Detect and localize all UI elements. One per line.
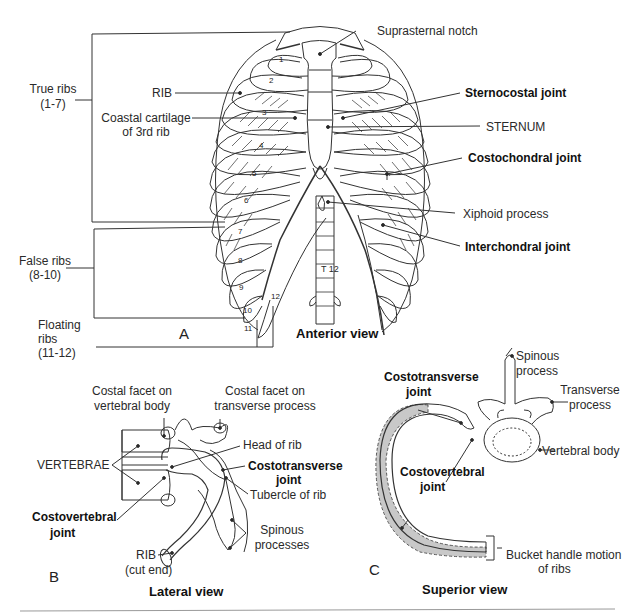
label-spinous-process-2: process [516, 364, 558, 378]
separator-line [20, 609, 615, 611]
label-false-ribs: False ribs [18, 254, 72, 268]
panel-letter-c: C [369, 561, 380, 578]
title-superior-view: Superior view [422, 582, 507, 597]
label-spinous-processes-2: processes [252, 538, 312, 552]
label-tubercle-of-rib: Tubercle of rib [250, 488, 326, 502]
label-costovertebral-joint-c: Costovertebral [400, 465, 485, 479]
label-spinous-processes: Spinous [252, 523, 312, 537]
label-costal-cartilage-2: of 3rd rib [98, 125, 194, 139]
label-interchondral-joint: Interchondral joint [465, 240, 570, 254]
label-costotransverse-joint-b-2: joint [276, 473, 301, 487]
label-facet-transverse-process-2: transverse process [210, 399, 320, 413]
label-costovertebral-joint-b: Costovertebral [32, 510, 117, 524]
panel-letter-b: B [49, 568, 59, 585]
label-false-ribs-range: (8-10) [18, 268, 72, 282]
label-floating-ribs: Floating [38, 318, 81, 332]
label-true-ribs: True ribs [26, 82, 80, 96]
label-costotransverse-joint-c: Costotransverse [384, 370, 479, 384]
lateral-view-drawing [112, 418, 248, 568]
label-facet-transverse-process: Costal facet on [210, 384, 320, 398]
label-suprasternal-notch: Suprasternal notch [377, 24, 478, 38]
label-floating-ribs-2: ribs [38, 332, 57, 346]
label-sternocostal-joint: Sternocostal joint [465, 86, 566, 100]
label-transverse-process: Transverse [555, 383, 625, 397]
rib-number-10: 10 [243, 306, 252, 315]
rib-number-12: 12 [271, 292, 280, 301]
label-costotransverse-joint-c-2: joint [406, 385, 431, 399]
rib-number-5: 5 [252, 169, 256, 178]
label-bucket-handle-motion-2: of ribs [538, 562, 571, 576]
title-anterior-view: Anterior view [296, 326, 378, 341]
rib-number-11: 11 [244, 324, 252, 333]
label-rib: RIB [152, 86, 172, 100]
label-facet-vertebral-body: Costal facet on [82, 384, 182, 398]
title-lateral-view: Lateral view [149, 584, 223, 599]
rib-number-6: 6 [244, 196, 248, 205]
label-bucket-handle-motion: Bucket handle motion [506, 548, 621, 562]
label-spinous-process: Spinous [516, 349, 559, 363]
label-floating-ribs-range: (11-12) [38, 346, 76, 360]
label-costotransverse-joint-b: Costotransverse [248, 459, 343, 473]
rib-number-8: 8 [238, 256, 242, 265]
panel-letter-a: A [179, 325, 189, 342]
rib-number-9: 9 [239, 283, 243, 292]
rib-number-7: 7 [238, 227, 242, 236]
thoracic-cage-figure: Suprasternal notch True ribs (1-7) RIB C… [0, 0, 635, 614]
label-xiphoid-process: Xiphoid process [463, 207, 548, 221]
label-costovertebral-joint-b-2: joint [50, 526, 75, 540]
label-rib-b: RIB [136, 548, 156, 562]
label-sternum: STERNUM [486, 120, 545, 134]
label-head-of-rib: Head of rib [243, 438, 302, 452]
label-vertebral-body: Vertebral body [542, 444, 619, 458]
label-costochondral-joint: Costochondral joint [468, 151, 581, 165]
label-vertebrae: VERTEBRAE [37, 458, 109, 472]
label-true-ribs-range: (1-7) [26, 97, 80, 111]
label-costovertebral-joint-c-2: joint [420, 480, 445, 494]
label-facet-vertebral-body-2: vertebral body [82, 399, 182, 413]
label-costal-cartilage: Coastal cartilage [98, 111, 194, 125]
rib-number-2: 2 [269, 76, 273, 85]
label-transverse-process-2: process [555, 398, 625, 412]
label-t12: T 12 [321, 262, 339, 276]
rib-number-4: 4 [259, 141, 263, 150]
rib-number-3: 3 [262, 108, 266, 117]
label-rib-cut-end: (cut end) [125, 563, 172, 577]
rib-number-1: 1 [279, 55, 283, 64]
